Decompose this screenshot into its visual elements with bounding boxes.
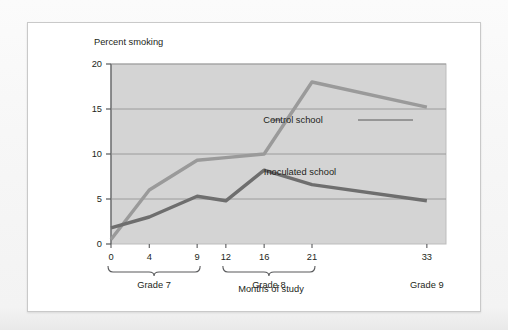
x-tick-label: 21 <box>307 252 317 262</box>
x-tick-label: 16 <box>259 252 269 262</box>
screenshot-root: 05101520 Percent smoking 04912162133 Gra… <box>0 0 508 330</box>
series-annotation-label: Inoculated school <box>264 167 336 177</box>
y-axis-title: Percent smoking <box>94 37 163 47</box>
x-tick-label: 33 <box>422 252 432 262</box>
group-label: Grade 9 <box>410 280 444 290</box>
chart-container: 05101520 Percent smoking 04912162133 Gra… <box>28 23 480 311</box>
group-bracket <box>108 266 200 276</box>
x-tick-label: 0 <box>108 252 113 262</box>
y-tick-label: 0 <box>97 239 102 249</box>
x-tick-label: 12 <box>221 252 231 262</box>
y-tick-label: 5 <box>97 194 102 204</box>
y-axis-ticks: 05101520 <box>92 59 111 249</box>
group-label: Grade 7 <box>137 280 171 290</box>
group-bracket <box>223 266 315 276</box>
x-tick-label: 4 <box>147 252 152 262</box>
figure-card: 05101520 Percent smoking 04912162133 Gra… <box>27 22 481 312</box>
line-chart: 05101520 Percent smoking 04912162133 Gra… <box>28 23 480 311</box>
series-annotation-label: Control school <box>263 115 322 125</box>
x-tick-label: 9 <box>195 252 200 262</box>
y-tick-label: 10 <box>92 149 102 159</box>
x-axis-title: Months of study <box>238 284 304 294</box>
y-tick-label: 20 <box>92 59 102 69</box>
y-tick-label: 15 <box>92 104 102 114</box>
x-axis-ticks: 04912162133 <box>108 244 432 262</box>
